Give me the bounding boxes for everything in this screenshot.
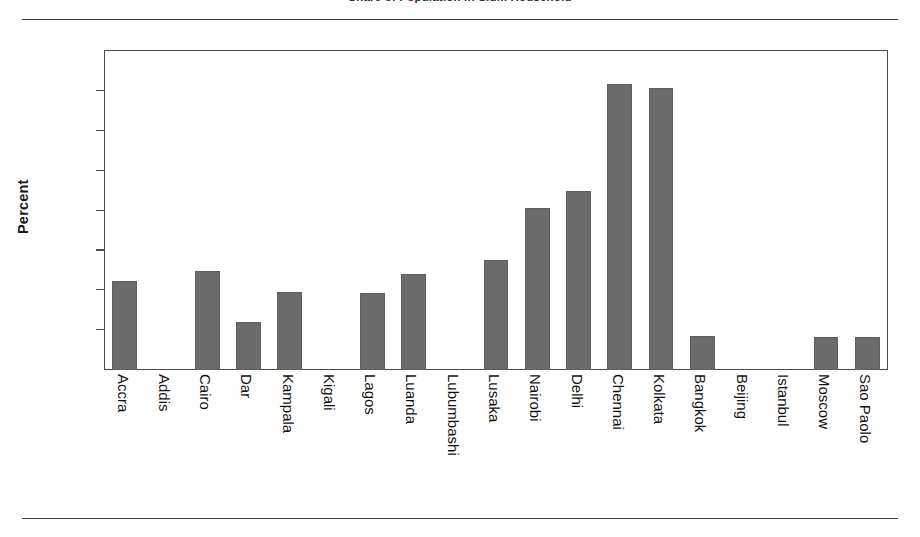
bar[interactable] xyxy=(814,337,839,370)
x-tick-label: Moscow xyxy=(817,374,832,524)
bar[interactable] xyxy=(401,274,426,370)
bar[interactable] xyxy=(195,271,220,370)
y-tick-mark xyxy=(96,90,104,91)
x-tick-label: Beijing xyxy=(735,374,750,524)
x-axis-labels: AccraAddisCairoDarKampalaKigaliLagosLuan… xyxy=(104,374,888,524)
x-tick-label: Accra xyxy=(116,374,131,524)
bar[interactable] xyxy=(277,292,302,370)
bars-layer xyxy=(104,50,888,370)
x-tick-label: Nairobi xyxy=(528,374,543,524)
x-tick-label: Kampala xyxy=(281,374,296,524)
bar[interactable] xyxy=(484,260,509,370)
y-tick-mark xyxy=(96,210,104,211)
y-tick-mark xyxy=(96,249,104,250)
bar[interactable] xyxy=(525,208,550,370)
x-tick-label: Cairo xyxy=(198,374,213,524)
bar[interactable] xyxy=(360,293,385,370)
x-tick-label: Sao Paolo xyxy=(858,374,873,524)
x-tick-label: Kolkata xyxy=(652,374,667,524)
x-tick-label: Luanda xyxy=(404,374,419,524)
bar[interactable] xyxy=(855,337,880,370)
bar[interactable] xyxy=(236,322,261,370)
x-tick-label: Dar xyxy=(239,374,254,524)
x-tick-label: Bangkok xyxy=(693,374,708,524)
bar[interactable] xyxy=(112,281,137,370)
bar-chart: Percent 01020304050607080 AccraAddisCair… xyxy=(0,0,920,537)
bar[interactable] xyxy=(690,336,715,370)
x-tick-label: Addis xyxy=(157,374,172,524)
x-tick-label: Istanbul xyxy=(776,374,791,524)
x-tick-label: Lagos xyxy=(363,374,378,524)
bar[interactable] xyxy=(566,191,591,370)
bar[interactable] xyxy=(607,84,632,370)
footer-divider-rule xyxy=(22,518,898,519)
y-tick-mark xyxy=(96,289,104,290)
x-tick-label: Lusaka xyxy=(487,374,502,524)
x-tick-label: Chennai xyxy=(611,374,626,524)
y-tick-mark xyxy=(96,130,104,131)
y-tick-mark xyxy=(96,329,104,330)
bar[interactable] xyxy=(649,88,674,370)
x-tick-label: Delhi xyxy=(570,374,585,524)
y-tick-mark xyxy=(96,170,104,171)
x-tick-label: Lubumbashi xyxy=(446,374,461,524)
y-axis: 01020304050607080 xyxy=(0,0,104,537)
x-tick-label: Kigali xyxy=(322,374,337,524)
